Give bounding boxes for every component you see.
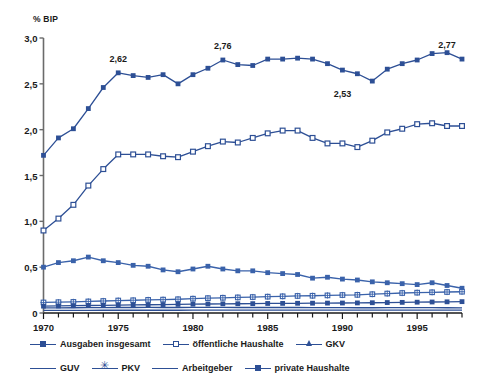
chart-figure: % BIP 00,51,01,52,02,53,0 19701975198019…: [0, 0, 477, 389]
legend-label: Arbeitgeber: [182, 363, 233, 373]
legend-label: GKV: [326, 339, 346, 349]
legend-row: Ausgaben insgesamtöffentliche HaushalteG…: [0, 332, 477, 356]
legend-label: private Haushalte: [275, 363, 350, 373]
chart-legend: Ausgaben insgesamtöffentliche HaushalteG…: [0, 332, 477, 380]
y-axis-tick-label: 2,0: [8, 124, 38, 135]
legend-marker-icon: [296, 339, 322, 349]
chart-plot-svg: [0, 0, 477, 389]
data-point-label: 2,62: [109, 54, 127, 64]
legend-item[interactable]: GKV: [296, 339, 346, 349]
y-axis-tick-label: 2,5: [8, 78, 38, 89]
y-axis-tick-label: 0,5: [8, 262, 38, 273]
legend-marker-icon: ✳: [92, 363, 118, 373]
legend-item[interactable]: Arbeitgeber: [152, 363, 233, 373]
data-point-label: 2,76: [214, 41, 232, 51]
data-point-label: 2,77: [438, 40, 456, 50]
y-axis-tick-label: 0: [8, 308, 38, 319]
legend-label: Ausgaben insgesamt: [60, 339, 151, 349]
legend-item[interactable]: öffentliche Haushalte: [163, 339, 284, 349]
legend-label: PKV: [122, 363, 141, 373]
legend-label: GUV: [60, 363, 80, 373]
legend-item[interactable]: Ausgaben insgesamt: [30, 339, 151, 349]
data-point-label: 2,53: [334, 89, 352, 99]
legend-marker-icon: [30, 339, 56, 349]
legend-item[interactable]: ✳PKV: [92, 363, 141, 373]
y-axis-tick-label: 3,0: [8, 33, 38, 44]
legend-item[interactable]: private Haushalte: [245, 363, 350, 373]
legend-marker-icon: [163, 339, 189, 349]
y-axis-tick-label: 1,0: [8, 216, 38, 227]
legend-marker-icon: [30, 363, 56, 373]
legend-row: GUV✳PKVArbeitgeberprivate Haushalte: [0, 356, 477, 380]
legend-label: öffentliche Haushalte: [193, 339, 284, 349]
legend-marker-icon: [245, 363, 271, 373]
legend-item[interactable]: GUV: [30, 363, 80, 373]
legend-marker-icon: [152, 363, 178, 373]
y-axis-tick-label: 1,5: [8, 170, 38, 181]
